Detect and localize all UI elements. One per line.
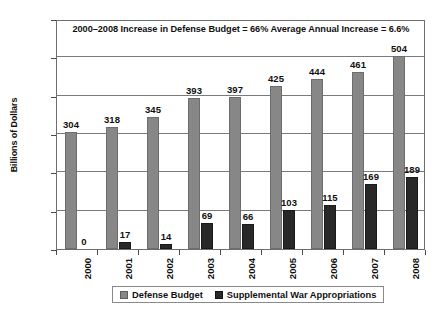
x-axis-tick-label-2005: 2005 [287, 258, 298, 279]
bar-defense-budget-2007 [352, 72, 364, 249]
chart-annotation-title: 2000–2008 Increase in Defense Budget = 6… [62, 24, 420, 34]
x-axis-tick-label-2001: 2001 [123, 258, 134, 279]
bar-value-label-supplemental-2008: 189 [396, 164, 428, 175]
x-axis-tick-mark [220, 250, 221, 255]
bar-supplemental-2005 [283, 210, 295, 249]
bar-supplemental-2007 [365, 184, 377, 249]
x-axis-tick-label-2003: 2003 [205, 258, 216, 279]
legend-swatch-icon-defense [120, 291, 128, 299]
bar-value-label-defense-2008: 504 [383, 43, 415, 54]
x-axis-tick-mark [425, 250, 426, 255]
gridline [57, 56, 424, 57]
bar-value-label-supplemental-2000: 0 [68, 236, 100, 247]
x-axis-tick-label-2002: 2002 [164, 258, 175, 279]
bar-defense-budget-2008 [393, 56, 405, 249]
x-axis-tick-label-2008: 2008 [410, 258, 421, 279]
x-axis-tick-mark [261, 250, 262, 255]
x-axis-tick-label-2006: 2006 [328, 258, 339, 279]
bar-value-label-supplemental-2007: 169 [355, 171, 387, 182]
bar-value-label-defense-2002: 345 [137, 104, 169, 115]
bar-value-label-supplemental-2001: 17 [109, 229, 141, 240]
bar-supplemental-2001 [119, 242, 131, 249]
bar-supplemental-2002 [160, 244, 172, 249]
bar-defense-budget-2002 [147, 117, 159, 249]
bar-value-label-supplemental-2006: 115 [314, 192, 346, 203]
bar-value-label-defense-2000: 304 [55, 119, 87, 130]
legend-swatch-icon-supplemental [215, 291, 223, 299]
bar-value-label-supplemental-2002: 14 [150, 231, 182, 242]
x-axis-tick-mark [97, 250, 98, 255]
bar-defense-budget-2000 [65, 132, 77, 249]
bar-value-label-supplemental-2005: 103 [273, 197, 305, 208]
chart-legend: Defense Budget Supplemental War Appropri… [112, 286, 384, 303]
bar-supplemental-2004 [242, 224, 254, 249]
legend-item-supplemental-war-appropriations: Supplemental War Appropriations [215, 290, 377, 300]
x-axis-tick-mark [138, 250, 139, 255]
bar-value-label-defense-2001: 318 [96, 114, 128, 125]
x-axis-tick-label-2004: 2004 [246, 258, 257, 279]
x-axis-tick-label-2000: 2000 [82, 258, 93, 279]
bar-defense-budget-2006 [311, 79, 323, 249]
x-axis-tick-mark [56, 250, 57, 255]
defense-budget-bar-chart: Billions of Dollars 0100200300400500600 … [0, 0, 443, 315]
x-axis-tick-mark [384, 250, 385, 255]
bar-value-label-defense-2006: 444 [301, 66, 333, 77]
x-axis-tick-mark [302, 250, 303, 255]
bar-value-label-defense-2004: 397 [219, 84, 251, 95]
bar-value-label-defense-2007: 461 [342, 59, 374, 70]
x-axis-tick-mark [343, 250, 344, 255]
bar-defense-budget-2004 [229, 97, 241, 249]
plot-area: 3040318173451439369397664251034441154611… [56, 20, 425, 250]
x-axis-tick-label-2007: 2007 [369, 258, 380, 279]
bar-value-label-defense-2003: 393 [178, 85, 210, 96]
y-axis-title: Billions of Dollars [9, 75, 19, 195]
bar-value-label-defense-2005: 425 [260, 73, 292, 84]
bar-value-label-supplemental-2004: 66 [232, 211, 264, 222]
bar-defense-budget-2003 [188, 98, 200, 249]
bar-defense-budget-2005 [270, 86, 282, 249]
bar-supplemental-2003 [201, 223, 213, 249]
legend-label-defense: Defense Budget [132, 290, 203, 300]
x-axis-tick-mark [179, 250, 180, 255]
legend-item-defense-budget: Defense Budget [120, 290, 203, 300]
bar-value-label-supplemental-2003: 69 [191, 210, 223, 221]
bar-supplemental-2006 [324, 205, 336, 249]
legend-label-supplemental: Supplemental War Appropriations [227, 290, 377, 300]
bar-supplemental-2008 [406, 177, 418, 249]
